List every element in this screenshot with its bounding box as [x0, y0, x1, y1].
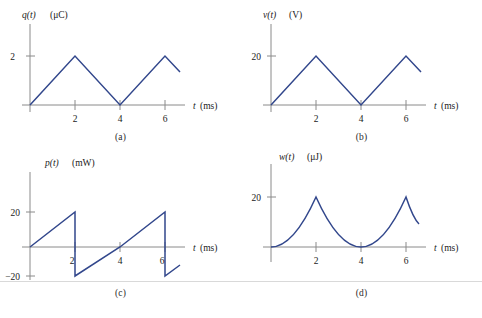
curve-a — [30, 56, 180, 105]
x-tick-label-a-2: 6 — [163, 114, 168, 124]
x-axis-label-c-unit: (ms) — [200, 243, 217, 254]
y-tick-label-d-0: 20 — [252, 193, 262, 203]
x-axis-label-d-unit: (ms) — [441, 243, 458, 254]
figure-divider — [0, 281, 482, 282]
caption-b: (b) — [241, 132, 482, 142]
x-axis-label-b-unit: (ms) — [441, 101, 458, 112]
chart-d: w(t) (μJ) 20 2 4 6 t (ms) — [241, 152, 482, 302]
x-tick-label-a-1: 4 — [118, 114, 123, 124]
panel-c: p(t) (mW) 20 −20 2 4 6 t (ms) (c) — [0, 152, 241, 302]
x-tick-label-b-1: 4 — [359, 114, 364, 124]
y-axis-label-d-unit: (μJ) — [307, 152, 322, 163]
x-tick-label-a-0: 2 — [73, 114, 78, 124]
y-tick-label-b-0: 20 — [252, 52, 262, 62]
panel-a: q(t) (μC) 2 2 4 6 t (ms) (a) — [0, 2, 241, 152]
x-axis-label-a-var: t — [193, 101, 196, 111]
chart-c: p(t) (mW) 20 −20 2 4 6 t (ms) — [0, 152, 241, 302]
x-axis-label-b-var: t — [434, 101, 437, 111]
x-axis-label-a-unit: (ms) — [200, 101, 217, 112]
x-tick-label-b-2: 6 — [404, 114, 409, 124]
caption-d: (d) — [241, 288, 482, 298]
curve-d — [271, 197, 419, 247]
x-tick-label-c-2: 6 — [160, 256, 165, 266]
caption-c: (c) — [0, 288, 241, 298]
x-tick-label-c-1: 4 — [118, 256, 123, 266]
x-tick-label-d-1: 4 — [359, 256, 364, 266]
figure-container: q(t) (μC) 2 2 4 6 t (ms) (a) v(t) (V) 20… — [0, 0, 482, 318]
panel-d: w(t) (μJ) 20 2 4 6 t (ms) (d) — [241, 152, 482, 302]
y-axis-label-d-var: w(t) — [279, 152, 294, 163]
x-tick-label-c-0: 2 — [70, 256, 75, 266]
y-axis-label-c-var: p(t) — [44, 158, 59, 169]
curve-b — [271, 56, 421, 105]
y-axis-label-a-var: q(t) — [22, 10, 36, 21]
y-tick-label-c-0: 20 — [11, 208, 21, 218]
y-axis-label-b-unit: (V) — [289, 10, 302, 21]
x-tick-label-d-0: 2 — [314, 256, 319, 266]
y-axis-label-b-var: v(t) — [263, 10, 276, 21]
panel-b: v(t) (V) 20 2 4 6 t (ms) (b) — [241, 2, 482, 152]
chart-a: q(t) (μC) 2 2 4 6 t (ms) — [0, 2, 241, 152]
y-axis-label-a-unit: (μC) — [50, 10, 68, 21]
y-axis-label-c-unit: (mW) — [72, 158, 95, 169]
x-axis-label-d-var: t — [434, 243, 437, 253]
curve-c — [30, 212, 180, 276]
x-axis-label-c-var: t — [193, 243, 196, 253]
x-tick-label-d-2: 6 — [404, 256, 409, 266]
x-tick-label-b-0: 2 — [314, 114, 319, 124]
caption-a: (a) — [0, 132, 241, 142]
y-tick-label-a-0: 2 — [10, 52, 15, 62]
chart-b: v(t) (V) 20 2 4 6 t (ms) — [241, 2, 482, 152]
